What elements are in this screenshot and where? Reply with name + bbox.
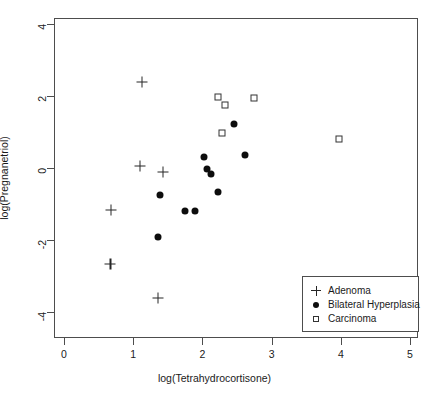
x-tick-mark xyxy=(202,338,203,345)
legend-item-bilateral-hyperplasia: Bilateral Hyperplasia xyxy=(310,297,412,311)
y-axis-label: log(Pregnanetriol) xyxy=(0,136,10,219)
data-point-bilateral-hyperplasia xyxy=(215,189,222,196)
x-tick-label: 5 xyxy=(398,348,422,360)
y-tick-label: -2 xyxy=(36,240,48,249)
data-point-adenoma xyxy=(137,76,148,87)
y-tick-label: 0 xyxy=(36,168,48,174)
legend-marker-icon xyxy=(310,312,324,324)
data-point-bilateral-hyperplasia xyxy=(201,153,208,160)
data-point-adenoma xyxy=(157,166,168,177)
y-tick-mark xyxy=(47,168,54,169)
data-point-bilateral-hyperplasia xyxy=(157,191,164,198)
data-point-bilateral-hyperplasia xyxy=(230,121,237,128)
data-point-carcinoma xyxy=(251,95,258,102)
data-point-adenoma xyxy=(106,205,117,216)
x-tick-label: 2 xyxy=(190,348,214,360)
y-tick-label: 4 xyxy=(36,24,48,30)
legend-item-adenoma: Adenoma xyxy=(310,283,412,297)
legend-marker-icon xyxy=(310,298,324,310)
legend-item-label: Carcinoma xyxy=(328,313,376,324)
data-point-bilateral-hyperplasia xyxy=(182,207,189,214)
legend-item-carcinoma: Carcinoma xyxy=(310,311,412,325)
y-tick-mark xyxy=(47,24,54,25)
data-point-adenoma xyxy=(135,160,146,171)
chart-legend: AdenomaBilateral HyperplasiaCarcinoma xyxy=(302,276,419,332)
data-point-carcinoma xyxy=(215,94,222,101)
y-tick-label: 2 xyxy=(36,96,48,102)
legend-item-label: Bilateral Hyperplasia xyxy=(328,299,420,310)
data-point-carcinoma xyxy=(218,130,225,137)
page-header-text xyxy=(150,0,429,9)
x-tick-label: 4 xyxy=(329,348,353,360)
data-point-carcinoma xyxy=(335,135,342,142)
legend-item-label: Adenoma xyxy=(328,285,371,296)
x-tick-mark xyxy=(410,338,411,345)
x-tick-mark xyxy=(341,338,342,345)
data-point-adenoma xyxy=(105,258,116,269)
x-tick-mark xyxy=(272,338,273,345)
x-tick-mark xyxy=(133,338,134,345)
data-point-adenoma xyxy=(153,292,164,303)
data-point-bilateral-hyperplasia xyxy=(242,152,249,159)
y-tick-label: -4 xyxy=(36,312,48,321)
data-point-bilateral-hyperplasia xyxy=(155,233,162,240)
y-tick-mark xyxy=(47,96,54,97)
x-tick-label: 1 xyxy=(121,348,145,360)
x-tick-mark xyxy=(64,338,65,345)
legend-marker-icon xyxy=(310,284,324,296)
data-point-carcinoma xyxy=(221,102,228,109)
x-tick-label: 0 xyxy=(52,348,76,360)
data-point-bilateral-hyperplasia xyxy=(192,207,199,214)
x-tick-label: 3 xyxy=(260,348,284,360)
x-axis-label: log(Tetrahydrocortisone) xyxy=(0,372,429,384)
data-point-bilateral-hyperplasia xyxy=(208,171,215,178)
scatter-plot-figure: 420-2-4 012345 log(Tetrahydrocortisone) … xyxy=(0,0,429,397)
